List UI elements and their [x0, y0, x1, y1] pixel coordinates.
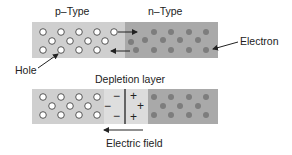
electron-icon [151, 94, 157, 100]
electron-icon [195, 103, 201, 109]
p-type-label: p–Type [55, 5, 90, 17]
electron-icon [160, 37, 166, 43]
minus-icon: − [113, 109, 120, 123]
electron-icon [168, 112, 174, 118]
minus-icon: − [104, 99, 111, 113]
electron-icon [186, 112, 192, 118]
hole-icon [49, 103, 56, 110]
hole-icon [94, 112, 101, 119]
n-type-label: n–Type [148, 5, 183, 17]
hole-icon [67, 38, 74, 45]
electric-field-label: Electric field [106, 137, 163, 149]
hole-icon [58, 94, 65, 101]
hole-icon [40, 29, 47, 36]
hole-icon [111, 29, 118, 36]
electron-icon [160, 103, 166, 109]
n-region [148, 89, 218, 124]
electron-label: Electron [240, 35, 279, 47]
plus-icon: + [130, 110, 137, 124]
minus-icon: − [113, 89, 120, 103]
electron-icon [177, 103, 183, 109]
electron-icon [151, 112, 157, 118]
electron-icon [186, 94, 192, 100]
electron-icon [151, 47, 157, 53]
electron-icon [168, 47, 174, 53]
electron-icon [186, 29, 192, 35]
hole-icon [67, 103, 74, 110]
electron-icon [133, 47, 139, 53]
electron-icon [177, 37, 183, 43]
hole-icon [49, 38, 56, 45]
electron-icon [203, 112, 209, 118]
hole-icon [40, 94, 47, 101]
electron-icon [142, 37, 148, 43]
plus-icon: + [137, 99, 144, 113]
electron-icon [195, 37, 201, 43]
hole-icon [76, 47, 83, 54]
hole-icon [85, 103, 92, 110]
electron-icon [128, 39, 134, 45]
hole-icon [76, 112, 83, 119]
electron-icon [203, 94, 209, 100]
hole-icon [94, 94, 101, 101]
electron-icon [186, 47, 192, 53]
pn-junction-diagram: p–Type n–Type [0, 0, 292, 155]
hole-label: Hole [15, 64, 37, 76]
hole-icon [40, 47, 47, 54]
hole-icon [94, 47, 101, 54]
hole-icon [94, 29, 101, 36]
hole-icon [76, 29, 83, 36]
depletion-layer-label: Depletion layer [95, 73, 166, 85]
hole-icon [85, 38, 92, 45]
electron-icon [168, 94, 174, 100]
hole-icon [40, 112, 47, 119]
electron-icon [168, 29, 174, 35]
hole-icon [58, 112, 65, 119]
hole-icon [58, 47, 65, 54]
electron-icon [203, 47, 209, 53]
hole-icon [58, 29, 65, 36]
hole-icon [76, 94, 83, 101]
plus-icon: + [130, 89, 137, 103]
hole-icon [102, 38, 109, 45]
electron-icon [203, 29, 209, 35]
electron-icon [151, 29, 157, 35]
